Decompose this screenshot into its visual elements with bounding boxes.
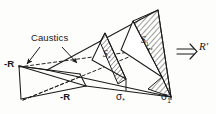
cross-section-sigma-star [92,33,126,91]
caustics-leader-arrows [27,47,77,64]
sigma-star-subscript: * [122,97,125,104]
propagation-double-arrow [177,44,197,59]
caustic-cone-diagram: Caustics -R -R σ* σ1 S* S1 R′ [0,0,216,114]
sigma-one-label: σ1 [161,92,171,105]
vector-r-prime-label: R′ [199,41,208,52]
s-star-label: S* [103,50,111,61]
s-one-subscript: 1 [146,41,149,47]
caustics-arrow-left [27,47,40,64]
s-star-subscript: * [108,55,111,61]
minus-r-mid-label: -R [60,92,70,102]
s-one-label: S1 [141,36,149,47]
cross-section-sigma-one [121,10,171,100]
minus-r-left-label: -R [4,59,14,69]
caustics-label: Caustics [31,33,68,43]
sigma-one-subscript: 1 [167,97,171,104]
sigma-star-label: σ* [116,92,125,105]
